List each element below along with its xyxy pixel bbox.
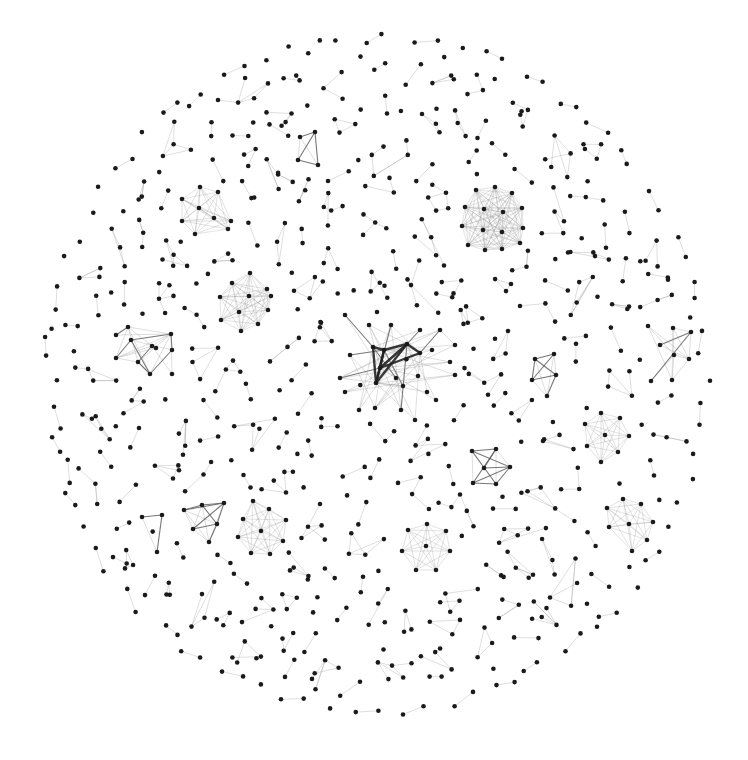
component-node: [452, 77, 457, 82]
component-node: [250, 447, 255, 452]
graph-edge: [646, 552, 660, 560]
component-node: [531, 573, 536, 578]
graph-edge: [284, 633, 294, 651]
component-node: [574, 300, 579, 305]
component-node: [86, 367, 91, 372]
component-node: [384, 226, 389, 231]
component-node: [373, 220, 378, 225]
ring-node: [43, 335, 48, 340]
cluster-left-node: [148, 372, 153, 377]
square-upper-mid-node: [296, 158, 301, 163]
component-node: [93, 414, 98, 419]
component-node: [275, 239, 280, 244]
isolated-node: [251, 120, 256, 125]
component-node: [471, 524, 476, 529]
cluster-left-mid-node: [237, 310, 242, 315]
ring-node: [65, 457, 70, 462]
component-node: [264, 110, 269, 115]
graph-edge: [519, 400, 532, 421]
cluster-left-node: [150, 344, 155, 349]
component-node: [122, 264, 127, 269]
component-node: [329, 339, 334, 344]
ring-node: [675, 500, 680, 505]
isolated-node: [551, 420, 556, 425]
graph-edge: [349, 533, 351, 554]
graph-edge: [585, 149, 597, 159]
graph-edge: [269, 509, 270, 554]
isolated-node: [579, 236, 584, 241]
component-node: [638, 305, 643, 310]
graph-edge: [213, 160, 224, 182]
ring-node: [220, 669, 225, 674]
component-node: [510, 268, 515, 273]
isolated-node: [301, 485, 306, 490]
graph-edge: [152, 346, 172, 374]
component-node: [455, 121, 460, 126]
graph-edge: [412, 477, 421, 494]
ring-node: [175, 633, 180, 638]
graph-edge: [182, 199, 231, 221]
graph-edge: [587, 435, 605, 446]
graph-edge: [499, 605, 519, 618]
component-node: [589, 572, 594, 577]
cluster-right-heptagon-node: [585, 444, 590, 449]
component-node: [532, 599, 537, 604]
graph-edge: [256, 609, 274, 610]
graph-edge: [320, 327, 332, 341]
graph-edge: [202, 505, 209, 542]
component-node: [392, 429, 397, 434]
component-node: [438, 600, 443, 605]
component-node: [575, 581, 580, 586]
component-node: [562, 336, 567, 341]
kite-bottom-left-node: [182, 508, 187, 513]
component-node: [404, 138, 409, 143]
graph-edge: [393, 251, 396, 269]
component-node: [451, 482, 456, 487]
ring-node: [401, 712, 406, 717]
component-node: [444, 190, 449, 195]
isolated-node: [315, 595, 320, 600]
component-node: [583, 147, 588, 152]
graph-edge: [452, 620, 460, 634]
graph-edge: [405, 611, 411, 630]
isolated-node: [150, 529, 155, 534]
graph-edge: [350, 355, 376, 383]
component-node: [98, 449, 103, 454]
ring-node: [354, 710, 359, 715]
graph-edge: [45, 337, 46, 356]
component-node: [321, 279, 326, 284]
component-node: [361, 212, 366, 217]
component-node: [109, 465, 114, 470]
cluster-left-mid-node: [247, 294, 252, 299]
graph-edge: [567, 153, 570, 177]
dense-cluster-top-right-node: [493, 185, 498, 190]
component-node: [620, 279, 625, 284]
component-node: [359, 590, 364, 595]
component-node: [318, 325, 323, 330]
component-node: [257, 427, 262, 432]
component-node: [464, 304, 469, 309]
component-node: [318, 320, 323, 325]
cluster-bottom-left-node: [259, 529, 264, 534]
graph-edge: [100, 452, 111, 467]
cluster-far-right-node: [687, 357, 692, 362]
graph-edge: [145, 576, 155, 595]
component-node: [372, 68, 377, 73]
component-node: [544, 526, 549, 531]
component-node: [321, 86, 326, 91]
component-node: [340, 204, 345, 209]
component-node: [552, 572, 557, 577]
graph-edge: [258, 310, 268, 324]
dense-cluster-top-right-node: [501, 210, 506, 215]
component-node: [283, 120, 288, 125]
component-node: [491, 357, 496, 362]
component-node: [434, 208, 439, 213]
ring-node: [597, 614, 602, 619]
graph-edge: [262, 489, 286, 492]
ring-node: [140, 130, 145, 135]
component-node: [182, 306, 187, 311]
component-node: [391, 249, 396, 254]
ring-node: [471, 690, 476, 695]
isolated-node: [311, 610, 316, 615]
ring-node: [636, 585, 641, 590]
